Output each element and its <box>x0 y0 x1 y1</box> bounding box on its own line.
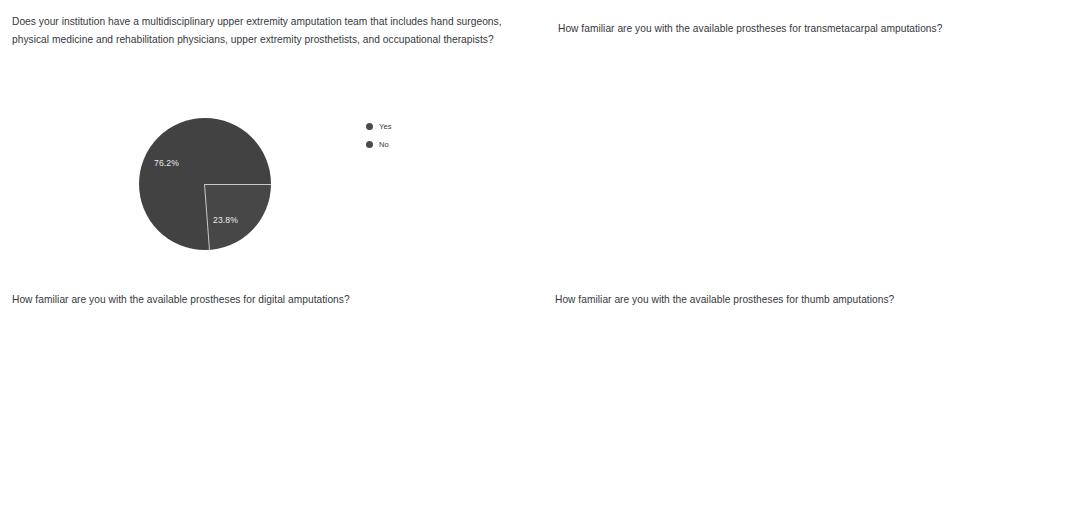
pie-chart-multidisciplinary-team: 76.2% 23.8% <box>139 118 271 250</box>
legend-label-yes: Yes <box>379 122 392 131</box>
question-text-thumb: How familiar are you with the available … <box>555 291 1071 309</box>
pie-slice-label-yes: 76.2% <box>154 158 179 168</box>
legend-item-yes: Yes <box>366 119 392 133</box>
panel-multidisciplinary-team: Does your institution have a multidiscip… <box>0 0 543 278</box>
survey-results-figure: Does your institution have a multidiscip… <box>0 0 1086 522</box>
question-text-transmetacarpal: How familiar are you with the available … <box>558 20 1074 38</box>
panel-transmetacarpal: How familiar are you with the available … <box>543 0 1086 278</box>
legend-label-no: No <box>379 140 389 149</box>
legend-item-no: No <box>366 137 392 151</box>
legend-swatch-icon <box>366 123 373 130</box>
pie-legend: Yes No <box>366 119 392 155</box>
pie-slice-divider <box>205 184 271 185</box>
panel-digital: How familiar are you with the available … <box>0 278 543 522</box>
pie-slice-label-no: 23.8% <box>213 215 238 225</box>
question-text-multidisciplinary-team: Does your institution have a multidiscip… <box>12 13 524 48</box>
question-text-digital: How familiar are you with the available … <box>12 291 524 309</box>
panel-thumb: How familiar are you with the available … <box>543 278 1086 522</box>
legend-swatch-icon <box>366 141 373 148</box>
